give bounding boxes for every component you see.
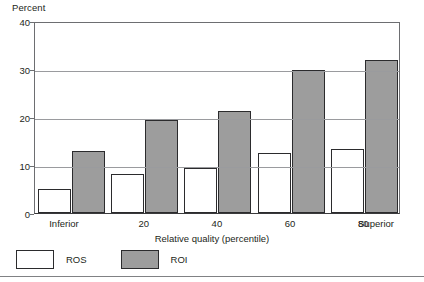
bar-ros-40 — [184, 168, 217, 213]
bottom-divider — [0, 276, 424, 277]
y-tick-mark-0 — [30, 214, 34, 215]
gridline-y-10 — [35, 167, 399, 168]
bar-roi-60 — [292, 70, 325, 213]
y-tick-label-30: 30 — [19, 65, 30, 76]
gridline-y-30 — [35, 71, 399, 72]
bar-ros-60 — [258, 153, 291, 213]
y-axis-tick-labels: 010203040 — [0, 0, 34, 282]
legend-label-ros: ROS — [66, 254, 87, 265]
y-tick-label-10: 10 — [19, 161, 30, 172]
x-axis-title: Relative quality (percentile) — [155, 233, 270, 244]
bar-roi-40 — [218, 111, 251, 213]
bar-ros-80 — [331, 149, 364, 213]
gridline-y-20 — [35, 119, 399, 120]
legend-item-roi: ROI — [121, 250, 222, 269]
bar-ros-inferior — [38, 189, 71, 213]
bar-series-container — [35, 23, 399, 213]
legend-swatch-roi — [121, 250, 159, 269]
chart-legend: ROS ROI — [16, 250, 221, 269]
legend-swatch-ros — [16, 250, 54, 269]
legend-label-roi: ROI — [171, 254, 188, 265]
x-tick-label-60: 60 — [285, 218, 296, 229]
x-tick-label-inferior: Inferior — [49, 218, 79, 229]
y-tick-label-40: 40 — [19, 17, 30, 28]
bar-roi-80 — [365, 60, 398, 213]
bar-ros-20 — [111, 174, 144, 213]
x-tick-label-20: 20 — [138, 218, 149, 229]
x-tick-label-40: 40 — [212, 218, 223, 229]
x-tick-label-superior: Superior — [358, 218, 394, 229]
plot-area — [34, 22, 400, 214]
chart-figure: Percent 010203040 Relative quality (perc… — [0, 0, 424, 282]
y-tick-label-20: 20 — [19, 113, 30, 124]
legend-item-ros: ROS — [16, 250, 121, 269]
bar-roi-inferior — [72, 151, 105, 213]
